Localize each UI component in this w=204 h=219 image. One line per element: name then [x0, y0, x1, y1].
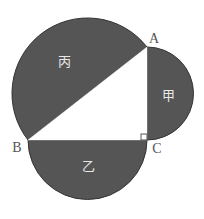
- geometry-diagram: 丙 甲 乙 A B C: [0, 0, 204, 219]
- vertex-label-a: A: [149, 31, 160, 46]
- vertex-label-c: C: [152, 141, 161, 156]
- region-label-bing: 丙: [58, 54, 71, 69]
- vertex-label-b: B: [12, 140, 21, 155]
- region-label-jia: 甲: [162, 88, 175, 103]
- region-label-yi: 乙: [82, 159, 95, 174]
